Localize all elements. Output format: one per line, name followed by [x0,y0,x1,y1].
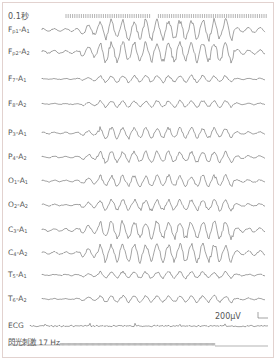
channel-label: O1-A1 [8,176,28,187]
channel-label: O2-A2 [8,200,28,211]
channel-label: F7-A1 [8,74,26,85]
ecg-label: ECG [8,321,24,330]
channel-label: F8-A2 [8,99,26,110]
channel-label: Fp2-A2 [8,47,30,58]
channel-label: T6-A2 [8,294,27,305]
channel-label: P3-A1 [8,128,27,139]
stimulus-label: 閃光刺激 17 Hz [8,336,60,347]
channel-label: T5-A1 [8,270,27,281]
channel-label: P4-A2 [8,152,27,163]
channel-label: C4-A2 [8,248,27,259]
channel-label: C3-A1 [8,225,27,236]
eeg-traces [0,0,278,362]
calibration-label: 200μV [215,312,241,321]
channel-label: Fp1-A1 [8,25,30,36]
